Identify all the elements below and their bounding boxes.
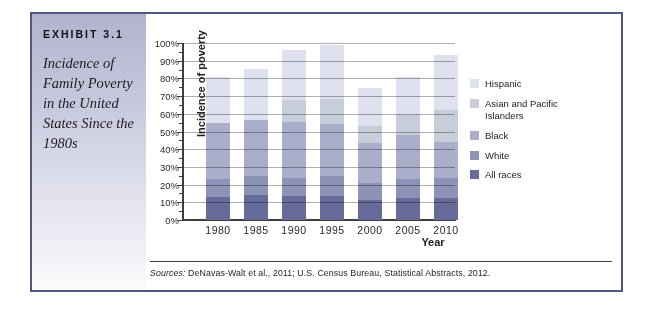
chart-region: Incidence of poverty 0%10%20%30%40%50%60… xyxy=(146,14,621,290)
gridline xyxy=(183,61,455,62)
y-minor-tick xyxy=(179,52,182,53)
y-minor-tick xyxy=(179,176,182,177)
bar-segment xyxy=(434,55,458,110)
gridline xyxy=(183,114,455,115)
y-tick-label: 80% xyxy=(139,73,179,84)
gridline xyxy=(183,202,455,203)
page: { "exhibit": { "label": "EXHIBIT 3.1", "… xyxy=(0,0,651,310)
gridline xyxy=(183,78,455,79)
bar-segment xyxy=(396,135,420,179)
source-note: Sources: DeNavas-Walt et al., 2011; U.S.… xyxy=(150,268,620,278)
legend-swatch xyxy=(470,79,479,88)
x-tick-label: 1990 xyxy=(274,224,314,236)
legend-item: Asian and Pacific Islanders xyxy=(470,98,574,122)
bar-segment xyxy=(320,99,344,125)
y-tick-label: 100% xyxy=(139,38,179,49)
legend-swatch xyxy=(470,151,479,160)
bar-segment xyxy=(358,126,382,144)
legend-swatch xyxy=(470,131,479,140)
x-tick-label: 2010 xyxy=(426,224,466,236)
bar-segment xyxy=(282,100,306,122)
y-tick-label: 40% xyxy=(139,144,179,155)
x-axis-title: Year xyxy=(297,236,569,248)
legend-item: All races xyxy=(470,169,574,181)
gridline xyxy=(183,149,455,150)
y-minor-tick xyxy=(179,70,182,71)
y-tick-label: 50% xyxy=(139,126,179,137)
y-minor-tick xyxy=(179,193,182,194)
bar-segment xyxy=(358,88,382,126)
legend-label: All races xyxy=(485,169,521,181)
legend-label: Hispanic xyxy=(485,78,521,90)
source-text: DeNavas-Walt et al., 2011; U.S. Census B… xyxy=(186,268,491,278)
x-tick-label: 1995 xyxy=(312,224,352,236)
legend-label: Asian and Pacific Islanders xyxy=(485,98,571,122)
y-minor-tick xyxy=(179,105,182,106)
bar-segment xyxy=(358,183,382,200)
y-tick-label: 60% xyxy=(139,108,179,119)
bar-segment xyxy=(206,77,230,123)
bar-segment xyxy=(244,69,268,120)
bar-segment xyxy=(206,197,230,220)
gridline xyxy=(183,96,455,97)
y-tick-label: 0% xyxy=(139,215,179,226)
y-tick-label: 20% xyxy=(139,179,179,190)
legend-swatch xyxy=(470,170,479,179)
exhibit-title: Incidence of Family Poverty in the Unite… xyxy=(43,53,137,153)
chart-legend: HispanicAsian and Pacific IslandersBlack… xyxy=(470,78,574,181)
x-tick-label: 1985 xyxy=(236,224,276,236)
bar-segment xyxy=(206,179,230,197)
bar-segment xyxy=(434,178,458,198)
y-minor-tick xyxy=(179,140,182,141)
exhibit-panel: EXHIBIT 3.1 Incidence of Family Poverty … xyxy=(30,12,623,292)
source-prefix: Sources: xyxy=(150,268,186,278)
y-minor-tick xyxy=(179,158,182,159)
exhibit-sidebar: EXHIBIT 3.1 Incidence of Family Poverty … xyxy=(32,14,146,290)
bar-segment xyxy=(396,198,420,220)
bar-segment xyxy=(282,196,306,220)
exhibit-number: EXHIBIT 3.1 xyxy=(43,28,137,40)
bar-segment xyxy=(434,110,458,142)
bar-segment xyxy=(434,142,458,177)
bar-segment xyxy=(434,198,458,220)
y-minor-tick xyxy=(179,123,182,124)
legend-label: White xyxy=(485,150,509,162)
y-tick-label: 10% xyxy=(139,197,179,208)
bar-segment xyxy=(396,179,420,198)
y-minor-tick xyxy=(179,211,182,212)
x-tick-label: 2005 xyxy=(388,224,428,236)
x-tick-label: 2000 xyxy=(350,224,390,236)
gridline xyxy=(183,43,455,44)
bar-segment xyxy=(320,196,344,220)
bar-segment xyxy=(282,178,306,197)
y-minor-tick xyxy=(179,87,182,88)
legend-item: Hispanic xyxy=(470,78,574,90)
y-tick-label: 90% xyxy=(139,55,179,66)
gridline xyxy=(183,167,455,168)
bar-segment xyxy=(320,176,344,196)
legend-label: Black xyxy=(485,130,508,142)
legend-item: Black xyxy=(470,130,574,142)
gridline xyxy=(183,132,455,133)
legend-item: White xyxy=(470,150,574,162)
y-tick-label: 30% xyxy=(139,161,179,172)
plot-area: 0%10%20%30%40%50%60%70%80%90%100%1980198… xyxy=(183,43,455,220)
bar-segment xyxy=(282,50,306,100)
y-tick-label: 70% xyxy=(139,91,179,102)
bar-segment xyxy=(244,195,268,220)
gridline xyxy=(183,185,455,186)
source-divider xyxy=(150,261,612,262)
legend-swatch xyxy=(470,99,479,108)
bar-segment xyxy=(320,45,344,99)
x-tick-label: 1980 xyxy=(198,224,238,236)
